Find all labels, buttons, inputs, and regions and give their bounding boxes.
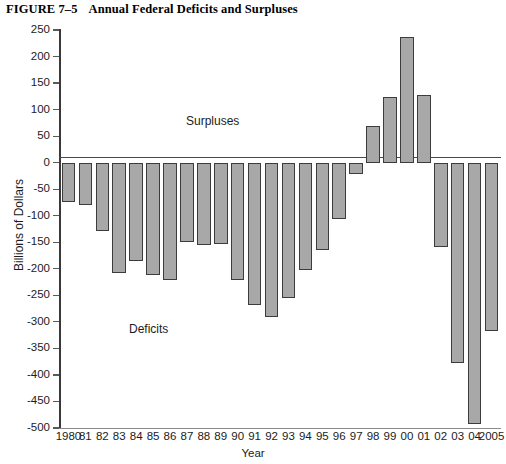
bar xyxy=(332,163,346,220)
bar xyxy=(366,126,380,163)
bar xyxy=(383,97,397,163)
y-axis-title: Billions of Dollars xyxy=(12,130,26,320)
x-axis-title: Year xyxy=(0,447,506,459)
bar xyxy=(146,163,160,276)
figure-title-text: Annual Federal Deficits and Surpluses xyxy=(89,2,298,16)
bar xyxy=(214,163,228,244)
bar xyxy=(282,163,296,298)
bar xyxy=(163,163,177,280)
annotation-surpluses: Surpluses xyxy=(186,114,239,128)
y-axis-tick-label: -400 xyxy=(6,369,50,381)
bar xyxy=(316,163,330,250)
bar xyxy=(62,163,76,202)
x-axis-tick-labels: 1980818283848586878889909192939495969798… xyxy=(0,430,506,448)
bar xyxy=(451,163,465,364)
bar xyxy=(129,163,143,261)
bar xyxy=(468,163,482,425)
bar xyxy=(112,163,126,273)
bar xyxy=(96,163,110,231)
bar xyxy=(79,163,93,205)
figure-container: FIGURE 7–5Annual Federal Deficits and Su… xyxy=(0,0,506,464)
y-axis-tick-label: -350 xyxy=(6,342,50,354)
bar xyxy=(231,163,245,280)
bar xyxy=(485,163,499,332)
plot-area xyxy=(60,30,500,428)
bar xyxy=(197,163,211,245)
bar xyxy=(417,95,431,162)
bar xyxy=(299,163,313,271)
y-axis-tick-label: -450 xyxy=(6,395,50,407)
y-axis-tick-label: 100 xyxy=(6,104,50,116)
annotation-deficits: Deficits xyxy=(129,322,168,336)
y-axis-tick-label: 200 xyxy=(6,51,50,63)
bar xyxy=(265,163,279,317)
x-axis-tick-label: 2005 xyxy=(472,430,506,444)
y-axis-tick-label: 250 xyxy=(6,24,50,36)
bar xyxy=(349,163,363,175)
bar xyxy=(434,163,448,247)
y-axis-tick-label: 150 xyxy=(6,77,50,89)
bar xyxy=(400,37,414,162)
bar xyxy=(248,163,262,306)
bar xyxy=(180,163,194,243)
